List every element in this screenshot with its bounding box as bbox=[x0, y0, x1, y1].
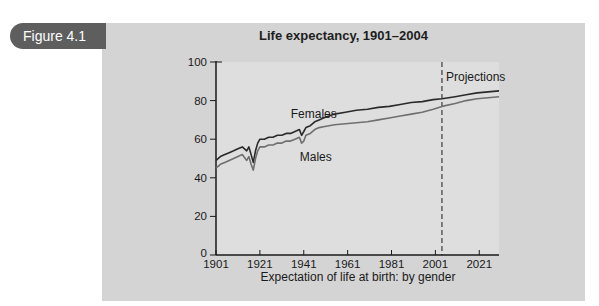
x-tick-label: 1921 bbox=[247, 258, 273, 270]
x-tick-label: 1961 bbox=[335, 258, 361, 270]
x-tick-label: 2021 bbox=[466, 258, 492, 270]
x-tick-label: 1941 bbox=[291, 258, 317, 270]
y-tick-label: 80 bbox=[194, 95, 207, 107]
y-tick-label: 20 bbox=[194, 210, 207, 222]
plot-area bbox=[216, 62, 499, 255]
y-tick-label: 100 bbox=[188, 56, 207, 68]
x-axis-label: Expectation of life at birth: by gender bbox=[216, 270, 500, 284]
series-label-females: Females bbox=[291, 107, 337, 121]
projections-label: Projections bbox=[446, 70, 505, 84]
y-tick-label: 60 bbox=[194, 133, 207, 145]
series-label-males: Males bbox=[300, 150, 332, 164]
x-tick-label: 2001 bbox=[423, 258, 449, 270]
line-chart: 0204060801001901192119411961198120012021… bbox=[0, 0, 599, 306]
x-tick-label: 1901 bbox=[203, 258, 229, 270]
x-tick-label: 1981 bbox=[379, 258, 405, 270]
y-tick-label: 40 bbox=[194, 172, 207, 184]
